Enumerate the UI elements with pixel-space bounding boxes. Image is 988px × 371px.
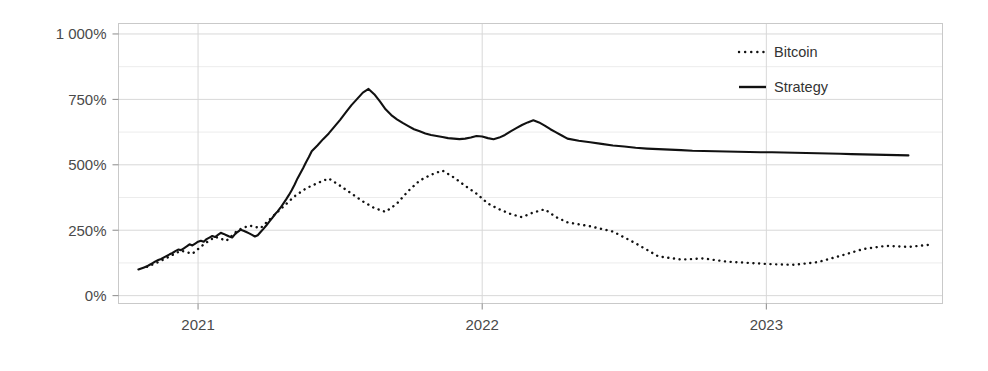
- y-tick-label: 0%: [85, 287, 107, 304]
- legend-label-bitcoin: Bitcoin: [774, 44, 818, 60]
- x-tick-label: 2023: [750, 316, 783, 333]
- y-tick-label: 750%: [68, 91, 106, 108]
- y-tick-label: 1 000%: [56, 25, 107, 42]
- y-tick-label: 250%: [68, 222, 106, 239]
- x-tick-label: 2022: [466, 316, 499, 333]
- performance-line-chart: 1 000%750%500%250%0% 202120222023 Bitcoi…: [0, 0, 988, 371]
- chart-container: 1 000%750%500%250%0% 202120222023 Bitcoi…: [0, 0, 988, 371]
- x-tick-label: 2021: [181, 316, 214, 333]
- y-tick-label: 500%: [68, 156, 106, 173]
- legend-label-strategy: Strategy: [774, 79, 829, 95]
